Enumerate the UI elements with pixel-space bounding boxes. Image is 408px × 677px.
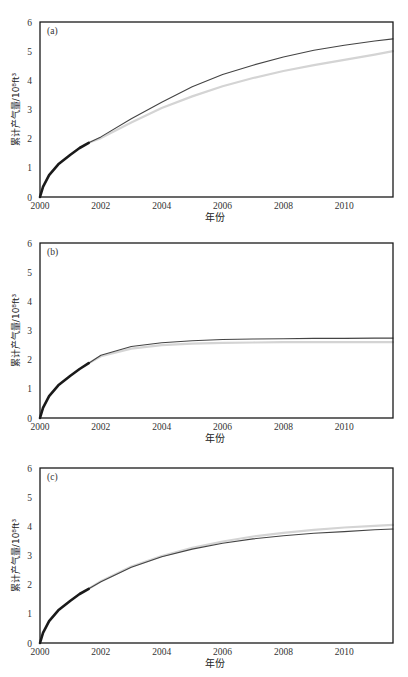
y-tick-label: 1 [27, 609, 32, 619]
y-tick-label: 6 [27, 464, 32, 474]
x-axis-label: 年份 [205, 657, 225, 669]
x-tick-label: 2010 [335, 647, 354, 657]
y-tick-label: 3 [27, 551, 32, 561]
x-tick-label: 2006 [213, 647, 232, 657]
x-tick-label: 2008 [274, 647, 293, 657]
x-tick-label: 2000 [31, 647, 50, 657]
chart-panel-c: 0123456200020022004200620082010年份累计产气量/1… [0, 0, 408, 677]
panel-label: (c) [47, 472, 58, 483]
y-tick-label: 2 [27, 580, 32, 590]
y-axis-label: 累计产气量/10⁸ft³ [10, 518, 21, 592]
x-tick-label: 2002 [91, 647, 110, 657]
x-tick-label: 2004 [152, 647, 171, 657]
y-tick-label: 5 [27, 493, 32, 503]
y-tick-label: 4 [27, 522, 32, 532]
plot-frame [40, 468, 393, 643]
series-forecast-faint [89, 525, 393, 589]
series-history [40, 589, 89, 643]
